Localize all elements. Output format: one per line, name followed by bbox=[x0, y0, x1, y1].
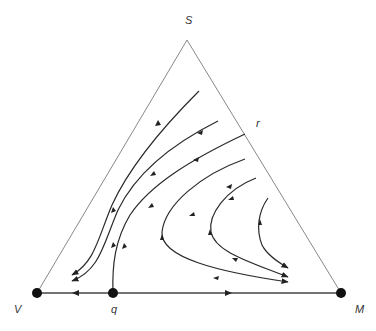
trajectory-5 bbox=[211, 178, 288, 277]
traj-arrow-icon bbox=[111, 242, 116, 248]
traj-arrow-icon bbox=[213, 276, 219, 280]
node-q bbox=[108, 288, 118, 298]
simplex-phase-portrait: S V q M r bbox=[0, 0, 376, 331]
node-v bbox=[32, 288, 42, 298]
trajectory-6 bbox=[259, 198, 288, 268]
trajectory-2 bbox=[72, 121, 218, 281]
traj-arrow-icon bbox=[232, 258, 238, 262]
trajectory-3 bbox=[113, 134, 245, 293]
label-s: S bbox=[185, 14, 193, 26]
label-v: V bbox=[14, 303, 23, 315]
base-arrow-left-icon bbox=[72, 290, 79, 296]
node-m bbox=[336, 288, 346, 298]
traj-arrow-icon bbox=[189, 212, 195, 216]
label-m: M bbox=[355, 303, 365, 315]
traj-arrow-icon bbox=[228, 196, 234, 200]
traj-arrow-icon bbox=[122, 243, 127, 249]
traj-arrow-icon bbox=[150, 171, 156, 176]
edge-s-v bbox=[37, 40, 187, 293]
trajectory-4 bbox=[162, 159, 288, 282]
traj-arrow-icon bbox=[226, 184, 232, 189]
traj-arrow-icon bbox=[160, 234, 164, 240]
traj-arrow-icon bbox=[111, 207, 116, 213]
traj-arrow-icon bbox=[148, 203, 154, 208]
edge-s-m bbox=[187, 40, 341, 293]
label-r: r bbox=[256, 117, 261, 129]
base-arrow-right-icon bbox=[225, 290, 232, 296]
traj-arrow-icon bbox=[155, 120, 161, 126]
label-q: q bbox=[111, 303, 118, 315]
